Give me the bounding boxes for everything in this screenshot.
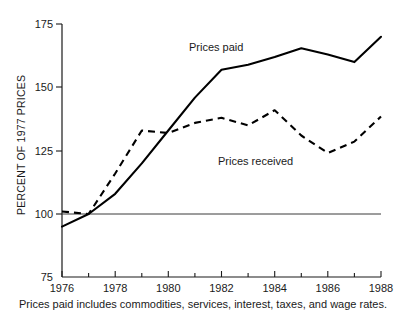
y-tick-marks [56, 24, 62, 214]
x-tick-label-1984: 1984 [262, 282, 286, 294]
x-tick-label-1978: 1978 [103, 282, 127, 294]
x-tick-label-1988: 1988 [369, 282, 393, 294]
series-label-prices-paid: Prices paid [189, 41, 243, 53]
y-tick-label-175: 175 [35, 18, 53, 30]
x-tick-label-1980: 1980 [156, 282, 180, 294]
chart-caption: Prices paid includes commodities, servic… [19, 298, 387, 310]
line-chart: PERCENT OF 1977 PRICES 175 150 125 100 7… [0, 0, 406, 318]
x-tick-marks [62, 271, 381, 277]
y-tick-label-125: 125 [35, 145, 53, 157]
x-tick-label-1986: 1986 [316, 282, 340, 294]
y-tick-label-150: 150 [35, 81, 53, 93]
x-tick-label-1982: 1982 [209, 282, 233, 294]
series-label-prices-received: Prices received [218, 155, 293, 167]
series-line-prices-paid [62, 37, 381, 227]
y-tick-label-100: 100 [35, 208, 53, 220]
y-axis-title: PERCENT OF 1977 PRICES [15, 75, 27, 215]
chart-figure: PERCENT OF 1977 PRICES 175 150 125 100 7… [0, 0, 406, 318]
x-tick-label-1976: 1976 [50, 282, 74, 294]
